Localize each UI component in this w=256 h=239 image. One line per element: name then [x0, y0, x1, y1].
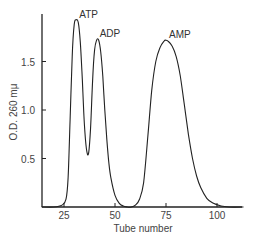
y-tick-label: 1.0 [21, 105, 35, 116]
absorbance-curve [42, 20, 244, 208]
peak-label-amp: AMP [169, 29, 191, 40]
x-tick-label: 100 [209, 210, 226, 221]
labels: ATPADPAMP [79, 9, 191, 40]
y-axis-title: O.D. 260 mμ [8, 83, 19, 140]
chromatogram-chart: 0.51.01.5255075100Tube numberO.D. 260 mμ… [0, 0, 256, 239]
axes: 0.51.01.5255075100Tube numberO.D. 260 mμ [8, 14, 242, 234]
peak-label-atp: ATP [79, 9, 98, 20]
x-tick-label: 50 [109, 210, 121, 221]
y-tick-label: 0.5 [21, 154, 35, 165]
x-axis-title: Tube number [113, 223, 173, 234]
y-tick-label: 1.5 [21, 57, 35, 68]
x-tick-label: 25 [58, 210, 70, 221]
x-tick-label: 75 [160, 210, 172, 221]
peak-label-adp: ADP [100, 28, 121, 39]
